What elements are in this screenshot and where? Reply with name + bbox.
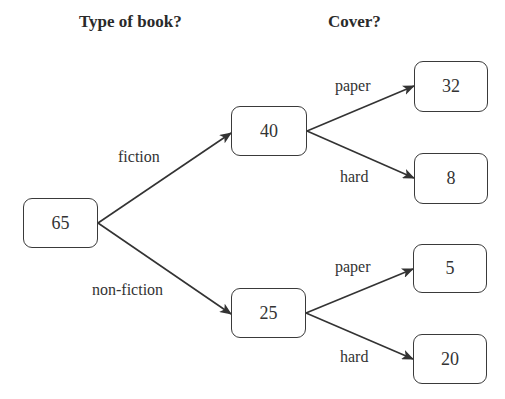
edge-label-fiction: fiction (118, 148, 160, 166)
node-value: 8 (447, 168, 456, 189)
node-non-fiction-paper: 5 (413, 244, 487, 293)
node-value: 20 (441, 349, 459, 370)
edge-label-non-fiction: non-fiction (92, 281, 163, 299)
edge-label-fiction-hard: hard (340, 168, 368, 186)
node-fiction: 40 (231, 106, 307, 156)
heading-cover: Cover? (328, 12, 381, 32)
edge-fiction (98, 133, 231, 223)
node-value: 65 (52, 213, 70, 234)
edge-label-fiction-paper: paper (335, 77, 371, 95)
tree-diagram: Type of book? Cover? 65 40 25 32 8 5 20 … (0, 0, 505, 399)
node-value: 25 (260, 303, 278, 324)
node-value: 32 (442, 76, 460, 97)
heading-type-of-book: Type of book? (79, 12, 182, 32)
node-non-fiction-hard: 20 (413, 334, 487, 384)
node-value: 40 (260, 121, 278, 142)
edge-non-fiction (98, 223, 231, 314)
node-value: 5 (446, 258, 455, 279)
edge-label-non-fiction-hard: hard (340, 348, 368, 366)
node-fiction-paper: 32 (414, 61, 488, 112)
node-fiction-hard: 8 (414, 153, 488, 204)
node-non-fiction: 25 (231, 288, 306, 338)
node-root-total: 65 (23, 198, 98, 248)
edge-label-non-fiction-paper: paper (335, 258, 371, 276)
